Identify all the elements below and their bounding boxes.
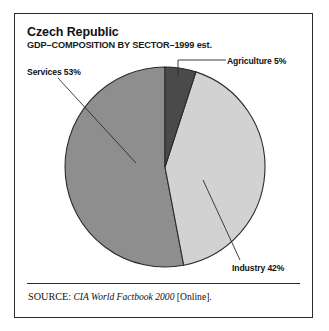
source-note: SOURCE: CIA World Factbook 2000 [Online]…: [28, 291, 212, 302]
source-title: CIA World Factbook 2000: [73, 291, 174, 302]
source-divider: [27, 283, 300, 284]
pie-label-services: Services 53%: [27, 67, 81, 77]
pie-label-industry: Industry 42%: [232, 263, 284, 273]
chart-subtitle: GDP–COMPOSITION BY SECTOR–1999 est.: [27, 40, 212, 50]
source-kicker: SOURCE:: [28, 291, 71, 302]
pie-chart-figure: Czech Republic GDP–COMPOSITION BY SECTOR…: [0, 0, 329, 331]
source-suffix: [Online].: [177, 291, 212, 302]
pie-label-agriculture: Agriculture 5%: [227, 56, 286, 66]
page-title: Czech Republic: [27, 25, 119, 39]
